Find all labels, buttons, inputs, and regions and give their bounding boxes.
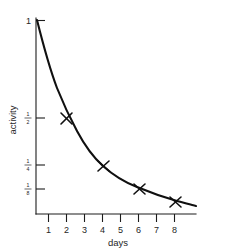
x-tick-label-4: 4 (100, 225, 105, 235)
y-tick-label-one-quarter-numerator: 1 (27, 158, 30, 164)
y-tick-label-one-eighth: 1 8 (25, 182, 32, 196)
y-tick-label-one-eighth-numerator: 1 (27, 182, 30, 188)
chart-canvas: 1 1 2 1 4 1 8 1 2 3 4 5 6 7 8 days activ… (0, 0, 239, 250)
x-tick-label-5: 5 (118, 225, 123, 235)
y-tick-label-one-half-denominator: 2 (27, 119, 30, 125)
x-tick-label-1: 1 (46, 225, 51, 235)
y-tick-label-one-half-numerator: 1 (27, 111, 30, 117)
y-tick-label-1: 1 (26, 16, 31, 26)
y-axis-title: activity (7, 105, 18, 134)
decay-chart-figure: 1 1 2 1 4 1 8 1 2 3 4 5 6 7 8 days activ… (0, 0, 239, 250)
data-point-day-4 (98, 161, 109, 171)
y-tick-label-one-quarter-denominator: 4 (27, 166, 30, 172)
y-tick-label-one-quarter: 1 4 (25, 158, 32, 172)
y-tick-label-one-half: 1 2 (25, 111, 32, 125)
x-tick-label-7: 7 (154, 225, 159, 235)
x-tick-label-3: 3 (82, 225, 87, 235)
y-tick-label-one-eighth-denominator: 8 (27, 190, 30, 196)
x-tick-label-8: 8 (172, 225, 177, 235)
x-tick-label-2: 2 (64, 225, 69, 235)
x-tick-label-6: 6 (136, 225, 141, 235)
x-axis-title: days (108, 237, 128, 248)
